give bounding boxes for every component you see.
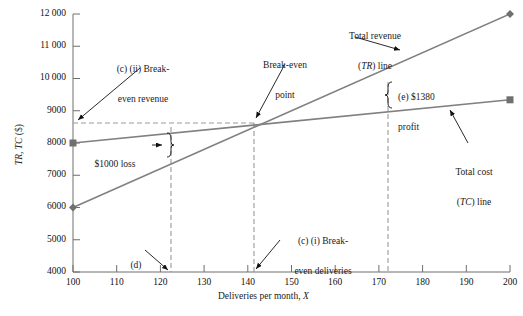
x-tick-label-100: 100 — [53, 277, 93, 287]
annotation-break-even-deliveries-line1: (c) (i) Break- — [268, 236, 378, 246]
annotation-total-revenue-line2: (TR) line — [320, 61, 430, 71]
y-tick-label-6000: 6000 — [8, 201, 66, 211]
y-tick-label-12000: 12 000 — [8, 8, 66, 18]
annotation-total-revenue-line1: Total revenue — [320, 31, 430, 41]
annotation-profit-line1: (e) $1380 — [398, 92, 478, 102]
annotation-break-even-point-line2: point — [232, 90, 338, 100]
x-tick-label-130: 130 — [184, 277, 224, 287]
y-tick-label-5000: 5000 — [8, 234, 66, 244]
annotation-total-cost-line1: Total cost — [430, 167, 518, 177]
annotation-loss-text: $1000 loss — [78, 159, 152, 169]
annotation-total-cost-line2: (TC) line — [430, 197, 518, 207]
y-axis-title: TR, TC ($) — [14, 124, 24, 165]
annotation-point-d: (d) — [122, 240, 150, 290]
x-tick-label-180: 180 — [403, 277, 443, 287]
y-tick-label-4000: 4000 — [8, 266, 66, 276]
annotation-break-even-revenue-line1: (c) (ii) Break- — [88, 64, 198, 74]
break-even-chart: 12 000 11 000 10 000 9000 8000 7000 6000… — [0, 0, 523, 316]
annotation-total-cost-label: Total cost (TC) line — [430, 147, 518, 227]
total-cost-end-marker — [507, 96, 514, 103]
tc-symbol: TC — [460, 197, 472, 207]
annotation-loss: $1000 loss — [78, 139, 152, 189]
annotation-point-d-text: (d) — [122, 260, 150, 270]
y-tick-label-11000: 11 000 — [8, 40, 66, 50]
annotation-break-even-deliveries: (c) (i) Break- even deliveries — [268, 216, 378, 296]
tr-paren-close: ) line — [372, 61, 392, 71]
tc-paren-close: ) line — [472, 197, 492, 207]
x-tick-label-200: 200 — [490, 277, 523, 287]
total-revenue-end-marker — [506, 10, 514, 18]
y-tick-label-9000: 9000 — [8, 105, 66, 115]
annotation-break-even-revenue-line2: even revenue — [88, 94, 198, 104]
y-axis-title-variables: TR, TC — [14, 138, 24, 165]
y-axis-title-units: ($) — [14, 124, 24, 137]
annotation-break-even-deliveries-line2: even deliveries — [268, 266, 378, 276]
total-revenue-start-marker — [69, 204, 77, 212]
y-tick-label-10000: 10 000 — [8, 72, 66, 82]
x-tick-label-140: 140 — [228, 277, 268, 287]
annotation-profit: (e) $1380 profit — [398, 72, 478, 152]
annotation-profit-line2: profit — [398, 122, 478, 132]
tr-symbol: TR — [361, 61, 372, 71]
total-cost-start-marker — [70, 140, 77, 147]
annotation-break-even-revenue: (c) (ii) Break- even revenue — [88, 44, 198, 124]
x-tick-label-190: 190 — [446, 277, 486, 287]
y-tick-label-7000: 7000 — [8, 169, 66, 179]
